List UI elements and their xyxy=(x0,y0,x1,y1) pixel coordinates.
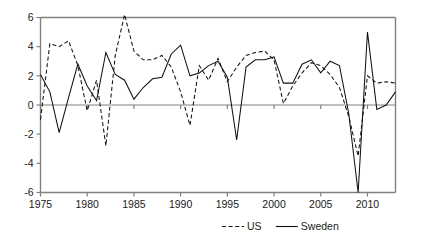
series-line-us xyxy=(41,15,396,156)
x-tick-label: 2010 xyxy=(356,198,380,210)
x-tick-label: 1975 xyxy=(29,198,53,210)
y-axis-ticks: 6420-2-4-6 xyxy=(24,11,40,198)
x-tick-label: 2005 xyxy=(309,198,333,210)
y-tick-label: 2 xyxy=(28,70,34,82)
line-chart: 6420-2-4-6 19751980198519901995200020052… xyxy=(0,0,425,247)
x-tick-label: 1985 xyxy=(122,198,146,210)
y-tick-label: 4 xyxy=(28,40,34,52)
legend-label-us: US xyxy=(247,220,262,232)
chart-legend: USSweden xyxy=(222,220,339,232)
y-tick-label: -6 xyxy=(24,186,33,198)
legend-label-sweden: Sweden xyxy=(301,220,339,232)
y-tick-label: -2 xyxy=(24,128,33,140)
series-line-sweden xyxy=(41,32,396,192)
x-tick-label: 2000 xyxy=(262,198,286,210)
y-tick-label: 0 xyxy=(28,99,34,111)
x-tick-label: 1995 xyxy=(216,198,240,210)
data-series-group xyxy=(41,15,396,193)
y-tick-label: 6 xyxy=(28,11,34,23)
y-tick-label: -4 xyxy=(24,157,33,169)
x-tick-label: 1990 xyxy=(169,198,193,210)
chart-container: 6420-2-4-6 19751980198519901995200020052… xyxy=(0,0,425,247)
x-axis-ticks: 19751980198519901995200020052010 xyxy=(29,105,379,210)
x-tick-label: 1980 xyxy=(76,198,100,210)
